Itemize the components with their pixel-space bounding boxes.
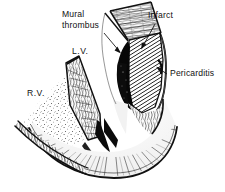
label-left-ventricle: L.V. bbox=[72, 46, 89, 56]
label-right-ventricle: R.V. bbox=[27, 88, 45, 98]
label-infarct: Infarct bbox=[148, 10, 173, 20]
medical-illustration-figure: Mural thrombus Infarct Pericarditis L.V.… bbox=[0, 0, 225, 192]
label-pericarditis: Pericarditis bbox=[170, 68, 214, 78]
heart-cross-section-svg: Mural thrombus Infarct Pericarditis L.V.… bbox=[0, 0, 225, 192]
label-mural-thrombus-line2: thrombus bbox=[62, 20, 99, 30]
label-mural-thrombus-line1: Mural bbox=[62, 9, 84, 19]
